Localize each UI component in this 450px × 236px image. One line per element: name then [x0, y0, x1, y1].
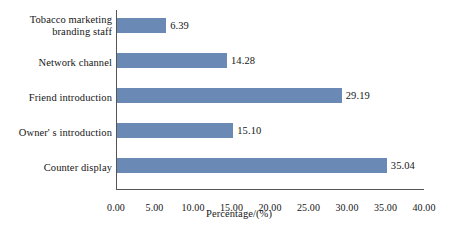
bar-value-network-channel: 14.28	[231, 53, 255, 68]
category-label-friend-introduction: Friend introduction	[29, 92, 116, 104]
x-axis-line	[116, 189, 424, 190]
bar-tobacco-marketing-branding-staff	[117, 18, 166, 33]
category-label-network-channel: Network channel	[38, 57, 116, 69]
bar-value-counter-display: 35.04	[391, 158, 415, 173]
category-label-tobacco-marketing-branding-staff: Tobacco marketing branding staff	[30, 14, 116, 37]
plot-area: 6.39 14.28 29.19 15.10 35.04 0.00 5.00 1…	[116, 10, 424, 190]
bar-value-friend-introduction: 29.19	[346, 88, 370, 103]
horizontal-bar-chart: Tobacco marketing branding staff Network…	[0, 0, 450, 236]
bar-counter-display	[117, 158, 387, 173]
bar-network-channel	[117, 53, 227, 68]
category-label-counter-display: Counter display	[44, 162, 116, 174]
bar-owners-introduction	[117, 123, 233, 138]
category-label-owners-introduction: Owner' s introduction	[19, 127, 116, 139]
bar-value-owners-introduction: 15.10	[237, 123, 261, 138]
bar-value-tobacco-marketing-branding-staff: 6.39	[170, 18, 189, 33]
x-axis-title: Percentage/(%)	[0, 208, 450, 219]
bar-friend-introduction	[117, 88, 342, 103]
x-axis-title-text: Percentage/(%)	[206, 208, 272, 219]
